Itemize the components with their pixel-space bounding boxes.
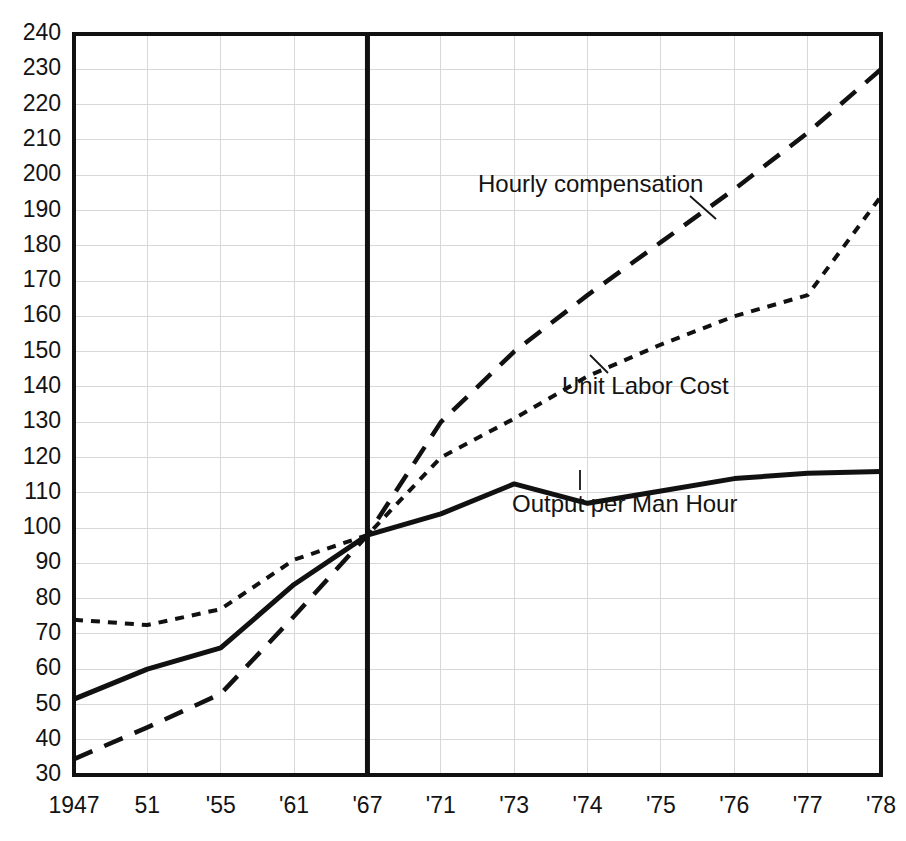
x-axis-label-75: '75	[646, 792, 676, 818]
x-axis-label-1947: 1947	[48, 792, 99, 818]
y-axis-label-160: 160	[23, 301, 61, 327]
y-axis-label-80: 80	[35, 584, 61, 610]
y-axis-label-130: 130	[23, 407, 61, 433]
y-axis-label-140: 140	[23, 372, 61, 398]
y-axis-label-60: 60	[35, 654, 61, 680]
y-axis-label-120: 120	[23, 443, 61, 469]
x-axis-label-76: '76	[719, 792, 749, 818]
x-axis-label-77: '77	[793, 792, 823, 818]
y-axis-label-170: 170	[23, 266, 61, 292]
y-axis-label-110: 110	[24, 478, 61, 504]
y-axis-label-40: 40	[35, 725, 61, 751]
x-axis-label-61: '61	[279, 792, 309, 818]
x-axis-label-51: 51	[135, 792, 161, 818]
y-axis-label-240: 240	[23, 19, 61, 45]
y-axis-label-70: 70	[35, 619, 61, 645]
x-axis-label-74: '74	[573, 792, 603, 818]
series-label-output-per-man-hour: Output per Man Hour	[512, 490, 737, 517]
y-axis-label-150: 150	[23, 337, 61, 363]
x-axis-label-55: '55	[206, 792, 236, 818]
chart-background	[0, 0, 906, 841]
x-axis-label-71: '71	[426, 792, 456, 818]
y-axis-label-200: 200	[23, 160, 61, 186]
series-label-hourly-compensation: Hourly compensation	[478, 170, 703, 197]
index-line-chart: 2402302202102001901801701601501401301201…	[0, 0, 906, 841]
series-label-unit-labor-cost: Unit Labor Cost	[562, 372, 729, 399]
x-axis-label-73: '73	[499, 792, 529, 818]
y-axis-label-90: 90	[35, 548, 61, 574]
chart-container: 2402302202102001901801701601501401301201…	[0, 0, 906, 841]
y-axis-label-230: 230	[23, 54, 61, 80]
y-axis-label-190: 190	[23, 196, 61, 222]
y-axis-label-220: 220	[23, 90, 61, 116]
y-axis-label-180: 180	[23, 231, 61, 257]
x-axis-label-78: '78	[866, 792, 896, 818]
y-axis-label-50: 50	[35, 690, 61, 716]
y-axis-label-30: 30	[35, 760, 61, 786]
x-axis-label-67: '67	[352, 792, 382, 818]
y-axis-label-210: 210	[23, 125, 61, 151]
y-axis-label-100: 100	[23, 513, 61, 539]
